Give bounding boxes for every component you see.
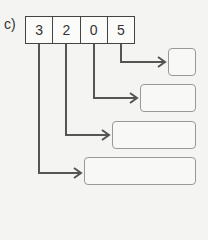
answer-box-ones[interactable] <box>168 48 196 76</box>
answer-box-hundreds[interactable] <box>112 121 196 149</box>
answer-box-thousands[interactable] <box>84 157 196 185</box>
arrow-hundreds <box>66 44 108 135</box>
answer-box-tens[interactable] <box>140 84 196 112</box>
arrow-ones <box>121 44 164 62</box>
arrow-thousands <box>39 44 80 173</box>
arrow-tens <box>94 44 136 98</box>
